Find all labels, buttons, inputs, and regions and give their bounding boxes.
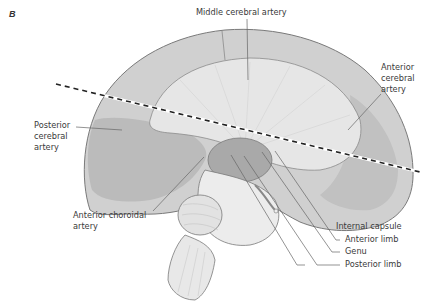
cerebellum-lobe [178,195,222,235]
label-middle-cerebral-artery: Middle cerebral artery [196,7,287,18]
label-internal-capsule: Internal capsule [336,221,402,232]
label-anterior-cerebral-artery: Anterior cerebral artery [381,62,415,95]
label-anterior-choroidal-artery: Anterior choroidal artery [73,210,146,232]
medulla [168,235,215,300]
label-posterior-cerebral-artery: Posterior cerebral artery [34,120,70,153]
label-posterior-limb: Posterior limb [345,259,402,270]
label-anterior-limb: Anterior limb [345,234,398,245]
label-genu: Genu [345,246,367,257]
